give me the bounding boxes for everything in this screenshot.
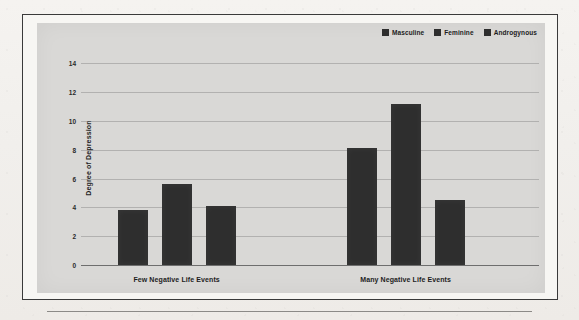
bar-feminine-group-2 [391,104,421,265]
bar-masculine-group-1 [118,210,148,265]
legend-item-feminine: Feminine [434,29,473,36]
legend-swatch-androgynous [484,29,491,36]
bar-feminine-group-1 [162,184,192,265]
gridline-6 [81,179,539,180]
y-tick-label-10: 10 [69,118,76,125]
legend-label-feminine: Feminine [444,29,473,36]
y-tick-label-12: 12 [69,89,76,96]
legend-swatch-feminine [434,29,441,36]
gridline-4 [81,207,539,208]
bar-androgynous-group-1 [206,206,236,265]
y-tick-label-14: 14 [69,60,76,67]
legend-swatch-masculine [382,29,389,36]
x-category-label-2: Many Negative Life Events [360,276,451,283]
gridline-12 [81,92,539,93]
y-tick-label-2: 2 [72,233,76,240]
gridline-2 [81,236,539,237]
y-tick-label-0: 0 [72,262,76,269]
chart-figure: Masculine Feminine Androgynous Degree of… [22,14,558,300]
y-tick-label-8: 8 [72,146,76,153]
chart-legend: Masculine Feminine Androgynous [382,29,537,36]
x-category-label-1: Few Negative Life Events [133,276,219,283]
legend-label-androgynous: Androgynous [494,29,537,36]
gridline-0 [81,265,539,266]
bar-masculine-group-2 [347,148,377,265]
legend-item-androgynous: Androgynous [484,29,537,36]
gridline-10 [81,121,539,122]
legend-label-masculine: Masculine [392,29,424,36]
plot-area: Masculine Feminine Androgynous Degree of… [37,23,545,293]
page-footer-rule [47,311,532,312]
bar-androgynous-group-2 [435,200,465,265]
gridline-14 [81,63,539,64]
y-tick-label-6: 6 [72,175,76,182]
y-tick-label-4: 4 [72,204,76,211]
plot-grid: 02468101214 [81,49,539,265]
gridline-8 [81,150,539,151]
legend-item-masculine: Masculine [382,29,424,36]
